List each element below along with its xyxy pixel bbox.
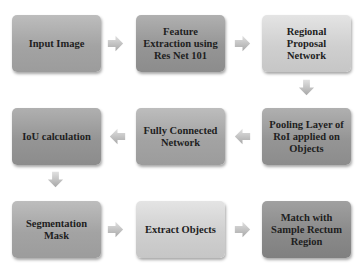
arrow-right-icon xyxy=(234,221,251,238)
node-label: Regional Proposal Network xyxy=(266,26,347,62)
node-pooling-layer: Pooling Layer of RoI applied on Objects xyxy=(262,108,351,165)
node-feature-extraction: Feature Extraction using Res Net 101 xyxy=(136,15,225,72)
arrow-left-icon xyxy=(234,128,251,145)
node-label: Input Image xyxy=(29,38,85,50)
node-label: Extract Objects xyxy=(145,224,216,236)
node-iou-calculation: IoU calculation xyxy=(12,108,101,165)
node-label: Segmentation Mask xyxy=(16,218,97,242)
node-match-sample-rectum-region: Match with Sample Rectum Region xyxy=(262,201,351,258)
node-segmentation-mask: Segmentation Mask xyxy=(12,201,101,258)
arrow-right-icon xyxy=(234,35,251,52)
node-fully-connected-network: Fully Connected Network xyxy=(136,108,225,165)
node-extract-objects: Extract Objects xyxy=(136,201,225,258)
node-label: Feature Extraction using Res Net 101 xyxy=(140,26,221,62)
node-regional-proposal-network: Regional Proposal Network xyxy=(262,15,351,72)
arrow-left-icon xyxy=(109,128,126,145)
node-label: Fully Connected Network xyxy=(140,125,221,149)
node-label: IoU calculation xyxy=(22,131,91,143)
node-input-image: Input Image xyxy=(12,15,101,72)
node-label: Match with Sample Rectum Region xyxy=(266,212,347,248)
arrow-right-icon xyxy=(107,35,124,52)
arrow-down-icon xyxy=(47,171,64,188)
arrow-right-icon xyxy=(107,221,124,238)
arrow-down-icon xyxy=(298,79,315,96)
node-label: Pooling Layer of RoI applied on Objects xyxy=(266,119,347,155)
